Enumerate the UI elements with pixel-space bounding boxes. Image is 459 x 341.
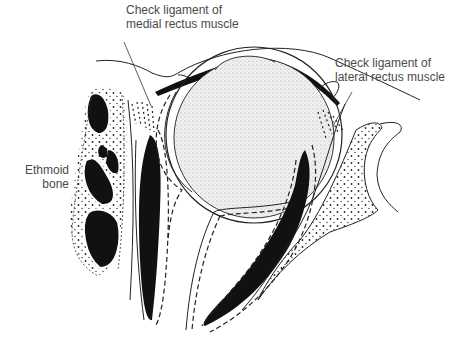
medial-check-ligament <box>132 102 154 132</box>
label-medial-line2: medial rectus muscle <box>126 17 239 31</box>
leader-lateral <box>333 92 352 126</box>
label-ethmoid-bone: Ethmoid bone <box>25 163 69 191</box>
label-lateral-line1: Check ligament of <box>335 56 445 70</box>
leader-medial <box>124 42 151 106</box>
posterior-cone <box>186 212 214 330</box>
ethmoid-bone <box>70 87 127 276</box>
globe <box>174 58 334 218</box>
label-lateral-line2: lateral rectus muscle <box>335 70 445 84</box>
medial-rectus-muscle <box>139 135 161 320</box>
label-medial-line1: Check ligament of <box>126 3 239 17</box>
label-ethmoid-line1: Ethmoid <box>25 163 69 177</box>
zygomatic-outer <box>377 122 401 212</box>
medial-orbital-wall <box>128 100 133 300</box>
label-medial-check-ligament: Check ligament of medial rectus muscle <box>126 3 239 31</box>
label-lateral-check-ligament: Check ligament of lateral rectus muscle <box>335 56 445 84</box>
label-ethmoid-line2: bone <box>25 177 69 191</box>
